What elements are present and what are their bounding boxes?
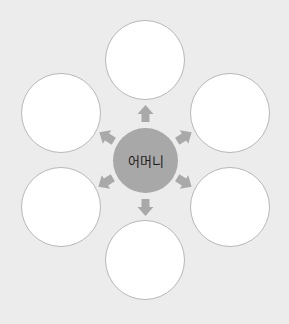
arrow-up-icon xyxy=(138,105,154,122)
arrow-lower-left-icon xyxy=(94,171,117,194)
arrow-upper-left-icon xyxy=(95,125,118,148)
mind-map-diagram: 어머니 xyxy=(0,0,289,324)
center-label: 어머니 xyxy=(128,151,164,170)
arrow-down-icon xyxy=(138,199,154,216)
arrow-lower-right-icon xyxy=(173,171,196,194)
arrow-upper-right-icon xyxy=(173,125,196,148)
center-node[interactable]: 어머니 xyxy=(113,128,178,193)
